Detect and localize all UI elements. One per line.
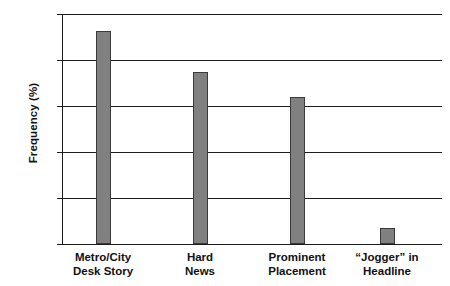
- bar-chart: Frequency (%) 100 80 60 40 20 0 Metro/Ci…: [0, 0, 450, 286]
- x-category-label-4: “Jogger” in Headline: [322, 250, 450, 278]
- gridline-60: [62, 106, 442, 107]
- x-category-label-4-line2: Headline: [322, 264, 450, 278]
- x-category-label-3-line1: Prominent: [269, 251, 326, 263]
- bar-prominent-placement: [290, 97, 305, 244]
- tick-mark-100: [57, 14, 62, 15]
- x-category-label-2-line1: Hard: [187, 251, 213, 263]
- tick-mark-60: [57, 106, 62, 107]
- y-axis-title: Frequency (%): [27, 38, 39, 208]
- x-category-label-4-line1: “Jogger” in: [355, 251, 418, 263]
- gridline-100: [62, 14, 442, 15]
- gridline-20: [62, 198, 442, 199]
- tick-mark-40: [57, 152, 62, 153]
- bar-hard-news: [193, 72, 208, 245]
- x-category-label-1-line1: Metro/City: [75, 251, 131, 263]
- gridline-80: [62, 60, 442, 61]
- tick-mark-80: [57, 60, 62, 61]
- gridline-40: [62, 152, 442, 153]
- bar-jogger-in-headline: [380, 228, 395, 244]
- tick-mark-0: [57, 244, 62, 245]
- plot-area: 100 80 60 40 20 0: [62, 14, 442, 244]
- x-axis-line: [62, 244, 442, 245]
- tick-mark-20: [57, 198, 62, 199]
- y-axis-line: [62, 14, 63, 244]
- bar-metro-city-desk-story: [96, 31, 111, 244]
